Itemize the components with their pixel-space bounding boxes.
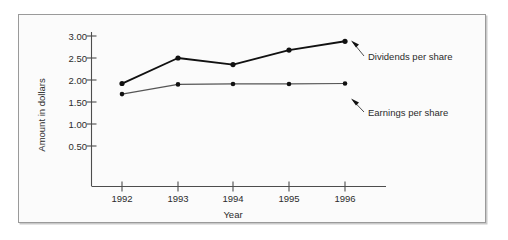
data-point xyxy=(176,82,181,87)
annotation-label-earnings: Earnings per share xyxy=(368,107,448,118)
data-point xyxy=(175,55,180,60)
data-point xyxy=(343,81,348,86)
data-point xyxy=(230,62,235,67)
x-tick-label-1992: 1992 xyxy=(111,193,132,204)
y-axis-title: Amount in dollars xyxy=(36,78,47,152)
line-chart: Amount in dollars 3.00 2.50 2.00 1.50 1.… xyxy=(19,15,485,222)
y-tick-label-3.00: 3.00 xyxy=(69,31,88,42)
data-point xyxy=(120,92,125,97)
annotation-arrowhead-earnings xyxy=(351,99,359,106)
x-tick-label-1996: 1996 xyxy=(334,193,355,204)
y-tick-label-1.00: 1.00 xyxy=(69,119,88,130)
annotation-arrowhead-dividends xyxy=(351,41,359,48)
x-axis-title: Year xyxy=(223,209,242,220)
data-point xyxy=(287,82,292,87)
x-tick-label-1993: 1993 xyxy=(167,193,188,204)
data-point xyxy=(342,39,347,44)
figure-frame: Amount in dollars 3.00 2.50 2.00 1.50 1.… xyxy=(18,14,486,223)
x-tick-label-1994: 1994 xyxy=(222,193,243,204)
y-tick-label-0.50: 0.50 xyxy=(69,141,88,152)
annotation-label-dividends: Dividends per share xyxy=(368,51,453,62)
x-tick-label-1995: 1995 xyxy=(278,193,299,204)
data-point xyxy=(286,47,291,52)
data-point xyxy=(231,82,236,87)
y-tick-label-1.50: 1.50 xyxy=(69,97,88,108)
annotation-dividends: Dividends per share xyxy=(351,41,453,62)
y-tick-label-2.00: 2.00 xyxy=(69,75,88,86)
data-point xyxy=(119,81,124,86)
y-tick-label-2.50: 2.50 xyxy=(69,53,88,64)
annotation-earnings: Earnings per share xyxy=(351,99,448,118)
